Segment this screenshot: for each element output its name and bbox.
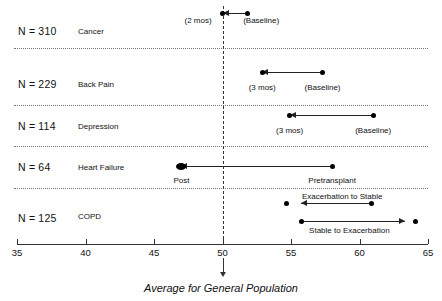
point-label-hf-pretransplant: Pretransplant — [308, 176, 356, 185]
data-point-marker — [176, 163, 186, 170]
x-axis-tick-label: 35 — [12, 247, 23, 258]
reference-callout-arrowhead — [220, 272, 226, 277]
plot-area: N = 310 Cancer (2 mos) (Baseline) N = 22… — [0, 0, 442, 244]
x-axis-tick-label: 40 — [80, 247, 91, 258]
x-axis-line — [17, 244, 428, 245]
row-separator — [14, 146, 428, 147]
data-point-marker — [413, 219, 418, 224]
row-n-copd: N = 125 — [18, 212, 56, 224]
point-label-depression-baseline: (Baseline) — [355, 126, 391, 135]
row-n-heart-failure: N = 64 — [18, 161, 50, 173]
row-label-heart-failure: Heart Failure — [78, 163, 124, 172]
arrow-label-copd-exacerbation-to-stable: Exacerbation to Stable — [302, 192, 383, 201]
data-point-marker — [284, 201, 289, 206]
data-point-marker — [260, 70, 265, 75]
x-axis-tick — [291, 239, 292, 244]
x-axis-tick-label: 65 — [423, 247, 434, 258]
x-axis-tick-label: 45 — [149, 247, 160, 258]
arrow-shaft — [262, 72, 322, 73]
x-axis-tick-label: 50 — [217, 247, 228, 258]
point-label-backpain-3mos: (3 mos) — [249, 83, 276, 92]
x-axis-tick — [223, 239, 224, 244]
point-label-hf-post: Post — [173, 176, 189, 185]
data-point-marker — [320, 70, 325, 75]
x-axis-tick — [86, 239, 87, 244]
row-separator — [14, 48, 428, 49]
arrow-head — [301, 200, 307, 206]
point-label-depression-3mos: (3 mos) — [276, 126, 303, 135]
row-separator — [14, 105, 428, 106]
data-point-marker — [245, 11, 250, 16]
point-label-backpain-baseline: (Baseline) — [304, 83, 340, 92]
data-point-marker — [299, 219, 304, 224]
arrow-shaft — [301, 203, 372, 204]
row-label-back-pain: Back Pain — [78, 80, 114, 89]
data-point-marker — [369, 201, 374, 206]
row-label-depression: Depression — [78, 122, 118, 131]
row-label-cancer: Cancer — [78, 27, 104, 36]
point-label-cancer-baseline: (Baseline) — [243, 16, 279, 25]
x-axis-tick — [17, 239, 18, 244]
data-point-marker — [220, 11, 225, 16]
data-point-marker — [330, 164, 335, 169]
point-label-cancer-2mos: (2 mos) — [185, 16, 212, 25]
x-axis-tick-label: 60 — [354, 247, 365, 258]
arrow-shaft — [181, 166, 332, 167]
data-point-marker — [287, 113, 292, 118]
row-separator — [14, 188, 428, 189]
reference-line-50 — [223, 6, 224, 244]
x-axis-tick — [154, 239, 155, 244]
row-label-copd: COPD — [78, 212, 101, 221]
data-point-marker — [371, 113, 376, 118]
arrow-head — [399, 218, 405, 224]
x-axis-tick-label: 55 — [286, 247, 297, 258]
arrow-shaft — [302, 221, 405, 222]
row-n-depression: N = 114 — [18, 120, 56, 132]
row-n-cancer: N = 310 — [18, 25, 56, 37]
x-axis-tick — [428, 239, 429, 244]
x-axis-tick — [360, 239, 361, 244]
row-n-back-pain: N = 229 — [18, 78, 56, 90]
arrow-label-copd-stable-to-exacerbation: Stable to Exacerbation — [309, 226, 390, 235]
x-axis-caption: Average for General Population — [0, 282, 442, 294]
chart-canvas: N = 310 Cancer (2 mos) (Baseline) N = 22… — [0, 0, 442, 301]
arrow-shaft — [290, 115, 374, 116]
